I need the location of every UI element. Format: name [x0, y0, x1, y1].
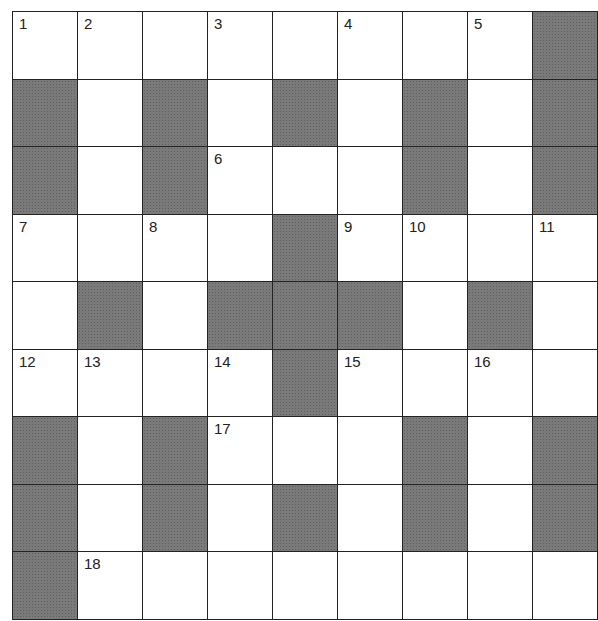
crossword-grid: 123456789101112131415161718 — [12, 11, 598, 620]
answer-cell[interactable]: 15 — [338, 350, 403, 418]
answer-cell[interactable]: 10 — [403, 215, 468, 283]
answer-cell[interactable]: 13 — [78, 350, 143, 418]
answer-cell[interactable] — [403, 282, 468, 350]
answer-cell[interactable] — [338, 147, 403, 215]
clue-number: 7 — [19, 219, 27, 234]
clue-number: 5 — [474, 16, 482, 31]
clue-number: 13 — [84, 354, 101, 369]
answer-cell[interactable] — [273, 552, 338, 620]
answer-cell[interactable] — [533, 282, 598, 350]
block-cell — [273, 282, 338, 350]
block-cell — [273, 350, 338, 418]
answer-cell[interactable] — [468, 485, 533, 553]
block-cell — [403, 485, 468, 553]
answer-cell[interactable] — [403, 12, 468, 80]
block-cell — [403, 417, 468, 485]
block-cell — [468, 282, 533, 350]
answer-cell[interactable] — [273, 147, 338, 215]
clue-number: 16 — [474, 354, 491, 369]
answer-cell[interactable]: 2 — [78, 12, 143, 80]
answer-cell[interactable] — [533, 350, 598, 418]
answer-cell[interactable] — [143, 282, 208, 350]
answer-cell[interactable] — [468, 147, 533, 215]
block-cell — [403, 147, 468, 215]
answer-cell[interactable]: 14 — [208, 350, 273, 418]
block-cell — [143, 485, 208, 553]
answer-cell[interactable] — [468, 552, 533, 620]
clue-number: 3 — [214, 16, 222, 31]
block-cell — [13, 417, 78, 485]
answer-cell[interactable] — [13, 282, 78, 350]
answer-cell[interactable] — [273, 417, 338, 485]
answer-cell[interactable]: 6 — [208, 147, 273, 215]
answer-cell[interactable] — [78, 80, 143, 148]
answer-cell[interactable] — [338, 417, 403, 485]
block-cell — [13, 552, 78, 620]
block-cell — [533, 417, 598, 485]
block-cell — [533, 12, 598, 80]
clue-number: 15 — [344, 354, 361, 369]
answer-cell[interactable]: 12 — [13, 350, 78, 418]
block-cell — [143, 80, 208, 148]
block-cell — [273, 215, 338, 283]
block-cell — [143, 417, 208, 485]
answer-cell[interactable] — [78, 417, 143, 485]
block-cell — [13, 147, 78, 215]
clue-number: 18 — [84, 556, 101, 571]
answer-cell[interactable] — [143, 350, 208, 418]
block-cell — [533, 147, 598, 215]
answer-cell[interactable] — [403, 552, 468, 620]
answer-cell[interactable] — [338, 80, 403, 148]
answer-cell[interactable] — [468, 215, 533, 283]
answer-cell[interactable] — [338, 552, 403, 620]
clue-number: 6 — [214, 151, 222, 166]
answer-cell[interactable] — [208, 215, 273, 283]
answer-cell[interactable]: 11 — [533, 215, 598, 283]
block-cell — [13, 80, 78, 148]
block-cell — [533, 485, 598, 553]
answer-cell[interactable] — [468, 417, 533, 485]
block-cell — [78, 282, 143, 350]
answer-cell[interactable] — [208, 485, 273, 553]
answer-cell[interactable] — [143, 552, 208, 620]
answer-cell[interactable] — [338, 485, 403, 553]
clue-number: 14 — [214, 354, 231, 369]
block-cell — [273, 80, 338, 148]
clue-number: 2 — [84, 16, 92, 31]
clue-number: 8 — [149, 219, 157, 234]
clue-number: 10 — [409, 219, 426, 234]
block-cell — [208, 282, 273, 350]
answer-cell[interactable]: 18 — [78, 552, 143, 620]
answer-cell[interactable]: 7 — [13, 215, 78, 283]
answer-cell[interactable] — [208, 80, 273, 148]
answer-cell[interactable]: 17 — [208, 417, 273, 485]
answer-cell[interactable] — [143, 12, 208, 80]
block-cell — [403, 80, 468, 148]
clue-number: 1 — [19, 16, 27, 31]
block-cell — [13, 485, 78, 553]
answer-cell[interactable]: 1 — [13, 12, 78, 80]
answer-cell[interactable]: 16 — [468, 350, 533, 418]
answer-cell[interactable] — [468, 80, 533, 148]
answer-cell[interactable] — [533, 552, 598, 620]
answer-cell[interactable] — [403, 350, 468, 418]
answer-cell[interactable]: 5 — [468, 12, 533, 80]
block-cell — [273, 485, 338, 553]
answer-cell[interactable] — [78, 485, 143, 553]
answer-cell[interactable] — [273, 12, 338, 80]
clue-number: 17 — [214, 421, 231, 436]
answer-cell[interactable] — [78, 147, 143, 215]
clue-number: 11 — [539, 219, 555, 234]
answer-cell[interactable]: 4 — [338, 12, 403, 80]
clue-number: 4 — [344, 16, 352, 31]
block-cell — [533, 80, 598, 148]
clue-number: 9 — [344, 219, 352, 234]
answer-cell[interactable]: 3 — [208, 12, 273, 80]
answer-cell[interactable]: 8 — [143, 215, 208, 283]
answer-cell[interactable]: 9 — [338, 215, 403, 283]
block-cell — [143, 147, 208, 215]
answer-cell[interactable] — [78, 215, 143, 283]
answer-cell[interactable] — [208, 552, 273, 620]
block-cell — [338, 282, 403, 350]
clue-number: 12 — [19, 354, 36, 369]
